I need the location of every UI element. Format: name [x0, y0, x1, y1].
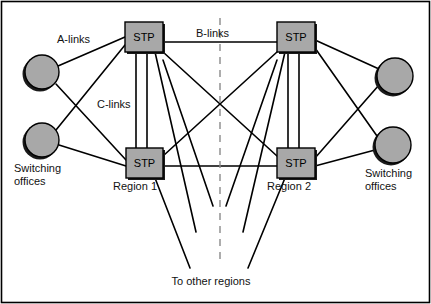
- b-links-label: B-links: [196, 27, 230, 39]
- switching-office-right-top[interactable]: [377, 58, 413, 94]
- switching-office-left-top[interactable]: [25, 55, 59, 89]
- region-2-label: Region 2: [267, 180, 311, 192]
- to-other-regions-label: To other regions: [172, 275, 251, 287]
- c-links-label: C-links: [97, 98, 131, 110]
- switching-offices-left-label-line2: offices: [14, 175, 46, 187]
- stp-top-left-label: STP: [133, 31, 154, 43]
- switching-offices-right-label-line2: offices: [365, 180, 397, 192]
- stp-bottom-right-label: STP: [285, 157, 306, 169]
- stp-top-right-label: STP: [285, 31, 306, 43]
- network-topology-figure: STP STP STP STP A-links B-links C-links …: [0, 0, 431, 304]
- a-links-label: A-links: [57, 33, 91, 45]
- switching-office-left-bottom[interactable]: [25, 123, 59, 157]
- region-1-label: Region 1: [113, 180, 157, 192]
- switching-office-right-bottom[interactable]: [375, 127, 411, 163]
- stp-bottom-left-label: STP: [134, 157, 155, 169]
- switching-offices-left-label-line1: Switching: [14, 162, 61, 174]
- switching-offices-right-label-line1: Switching: [365, 167, 412, 179]
